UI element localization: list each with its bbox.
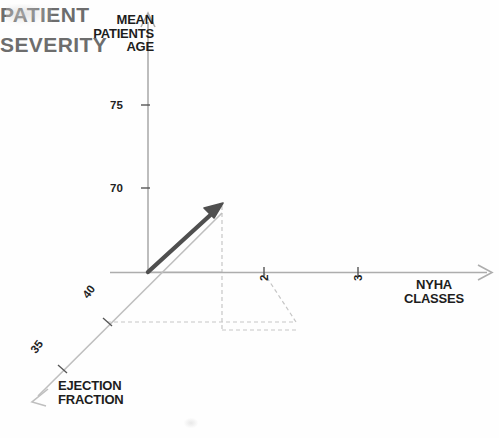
- diagram-canvas: MEANPATIENTSAGE NYHACLASSES EJECTIONFRAC…: [0, 0, 499, 438]
- axis-depth-title-line2: FRACTION: [58, 392, 124, 407]
- vector-shaft: [148, 209, 217, 272]
- tick-label-x-2: 2: [258, 275, 270, 281]
- axis-horizontal-title: NYHACLASSES: [404, 278, 464, 305]
- axis-vertical-title: MEANPATIENTSAGE: [93, 13, 154, 54]
- patient-severity-vector: [148, 203, 223, 272]
- axis-vertical-title-line3: AGE: [126, 39, 154, 54]
- axis-horizontal-title-line2: CLASSES: [404, 291, 464, 306]
- axis-depth-arrowhead: [32, 389, 48, 406]
- axis-depth-title: EJECTIONFRACTION: [58, 379, 124, 406]
- axes-and-vector-graphic: [0, 0, 499, 438]
- tick-label-y-75: 75: [110, 99, 123, 111]
- axis-depth-line: [38, 213, 222, 396]
- tick-label-y-70: 70: [110, 182, 123, 194]
- tick-label-x-3: 3: [352, 275, 364, 281]
